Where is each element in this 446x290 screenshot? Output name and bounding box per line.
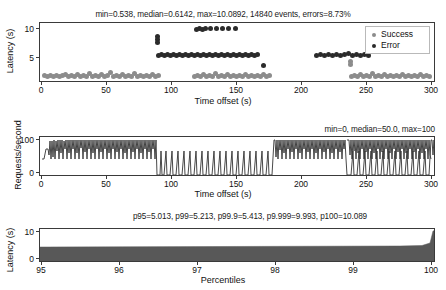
legend-error-dot (372, 44, 376, 48)
scatter-point-error (261, 63, 266, 68)
throughput-title: min=0, median=50.0, max=100 (105, 125, 435, 134)
percentiles-ylabel: Latency (s) (5, 220, 15, 280)
latency-scatter-title: min=0.538, median=0.6142, max=10.0892, 1… (0, 10, 446, 19)
throughput-xtick-250: 250 (352, 179, 380, 189)
panel-latency-scatter: min=0.538, median=0.6142, max=10.0892, 1… (0, 0, 446, 100)
latency-scatter-xtick-100: 100 (157, 85, 185, 95)
latency-scatter-xtick-0: 0 (27, 85, 55, 95)
scatter-point-error (214, 26, 219, 31)
scatter-point-success (348, 62, 353, 67)
latency-scatter-legend: Success Error (365, 26, 430, 54)
panel-percentiles: p95=5.013, p99=5.213, p99.9=5.413, p9.99… (0, 200, 446, 290)
percentiles-xtick-98: 98 (261, 265, 289, 275)
scatter-point-success (427, 74, 432, 79)
percentiles-title: p95=5.013, p99=5.213, p99.9=5.413, p9.99… (60, 212, 440, 221)
legend-success-dot (372, 33, 376, 37)
legend-success-label: Success (381, 29, 413, 40)
scatter-point-success (267, 73, 272, 78)
legend-item-error: Error (370, 40, 424, 51)
scatter-point-error (233, 26, 238, 31)
scatter-point-error (155, 40, 160, 45)
percentiles-xlabel: Percentiles (0, 275, 446, 285)
throughput-xtick-200: 200 (287, 179, 315, 189)
throughput-xtick-50: 50 (92, 179, 120, 189)
percentiles-ytick-10: 10 (16, 227, 34, 237)
latency-scatter-ytick-10: 10 (16, 24, 34, 34)
legend-error-label: Error (381, 40, 400, 51)
scatter-point-error (208, 26, 213, 31)
percentiles-xtick-97: 97 (183, 265, 211, 275)
percentiles-xtick-96: 96 (105, 265, 133, 275)
throughput-xtick-300: 300 (417, 179, 445, 189)
scatter-point-success (156, 73, 161, 78)
percentiles-ytick-0: 0 (16, 254, 34, 264)
percentiles-xtick-95: 95 (27, 265, 55, 275)
latency-scatter-xtick-50: 50 (92, 85, 120, 95)
latency-scatter-ytick-5: 5 (16, 53, 34, 63)
percentiles-area (40, 229, 435, 262)
panel-throughput: min=0, median=50.0, max=100 Requests/sec… (0, 106, 446, 196)
throughput-ytick-100: 100 (12, 135, 34, 145)
percentiles-xtick-100: 100 (417, 265, 445, 275)
legend-item-success: Success (370, 29, 424, 40)
throughput-xtick-150: 150 (222, 179, 250, 189)
throughput-line (40, 137, 435, 176)
latency-scatter-axes: Success Error (39, 22, 435, 82)
throughput-xtick-100: 100 (157, 179, 185, 189)
performance-figure: min=0.538, median=0.6142, max=10.0892, 1… (0, 0, 446, 290)
scatter-point-error (255, 52, 260, 57)
latency-scatter-xtick-150: 150 (222, 85, 250, 95)
latency-scatter-ylabel: Latency (s) (5, 21, 15, 81)
percentiles-axes (39, 228, 435, 262)
latency-scatter-xtick-300: 300 (417, 85, 445, 95)
throughput-xlabel: Time offset (s) (0, 189, 446, 199)
percentiles-xtick-99: 99 (339, 265, 367, 275)
throughput-axes (39, 136, 435, 176)
throughput-xtick-0: 0 (27, 179, 55, 189)
scatter-point-error (220, 26, 225, 31)
latency-scatter-xtick-200: 200 (287, 85, 315, 95)
latency-scatter-xtick-250: 250 (352, 85, 380, 95)
throughput-ytick-0: 0 (12, 168, 34, 178)
latency-scatter-xlabel: Time offset (s) (0, 96, 446, 106)
scatter-point-error (226, 26, 231, 31)
